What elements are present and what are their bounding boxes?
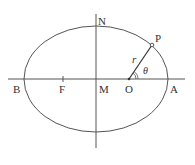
point-p: [150, 43, 154, 47]
label-m: M: [99, 83, 109, 95]
label-o: O: [125, 83, 133, 95]
label-a: A: [170, 83, 178, 95]
label-theta: θ: [143, 65, 148, 76]
label-b: B: [13, 83, 20, 95]
label-r: r: [132, 53, 137, 65]
theta-arc-inner: [133, 73, 136, 79]
label-f: F: [59, 83, 65, 95]
label-n: N: [98, 15, 106, 27]
ellipse-diagram: N P r θ B F M O A: [0, 0, 195, 165]
label-p: P: [155, 32, 161, 44]
